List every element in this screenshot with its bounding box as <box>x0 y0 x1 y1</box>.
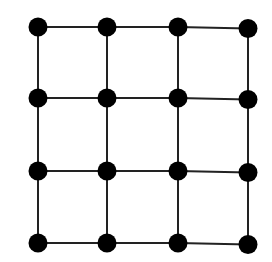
grid-graph-diagram <box>0 0 272 262</box>
edge-horizontal <box>178 27 248 29</box>
graph-node <box>169 89 188 108</box>
graph-node <box>239 19 258 38</box>
graph-node <box>98 234 117 253</box>
edges <box>38 27 248 245</box>
graph-node <box>29 18 48 37</box>
graph-node <box>239 235 258 254</box>
edge-horizontal <box>178 171 248 173</box>
graph-node <box>98 18 117 37</box>
edge-horizontal <box>178 243 248 245</box>
graph-node <box>239 163 258 182</box>
graph-node <box>29 162 48 181</box>
edge-horizontal <box>178 98 248 100</box>
graph-node <box>29 234 48 253</box>
graph-node <box>98 89 117 108</box>
nodes <box>29 18 258 255</box>
graph-node <box>239 90 258 109</box>
graph-node <box>29 89 48 108</box>
graph-node <box>98 162 117 181</box>
graph-node <box>169 162 188 181</box>
graph-node <box>169 234 188 253</box>
graph-node <box>169 18 188 37</box>
